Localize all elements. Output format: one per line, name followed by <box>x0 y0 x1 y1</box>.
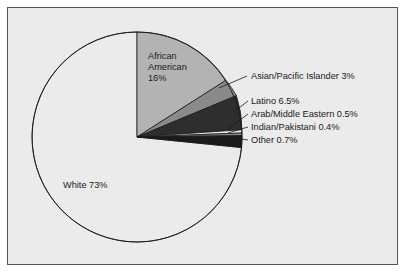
callout-label-indian-pakistani: Indian/Pakistani 0.4% <box>251 122 339 132</box>
slice-label-white: White 73% <box>63 180 107 190</box>
slice-label-african-american-line1: African <box>148 51 177 61</box>
callout-label-asian-pacific-islander: Asian/Pacific Islander 3% <box>251 71 355 81</box>
slice-label-african-american-line2: American <box>148 62 187 72</box>
callout-label-other: Other 0.7% <box>251 135 297 145</box>
slice-label-african-american-value: 16% <box>148 73 166 83</box>
callout-label-arab-middle-eastern: Arab/Middle Eastern 0.5% <box>251 109 358 119</box>
pie-chart-canvas: African American 16% White 73% Asian/Pac… <box>0 0 406 273</box>
pie-chart-figure: African American 16% White 73% Asian/Pac… <box>0 0 406 273</box>
callout-label-latino: Latino 6.5% <box>251 96 300 106</box>
